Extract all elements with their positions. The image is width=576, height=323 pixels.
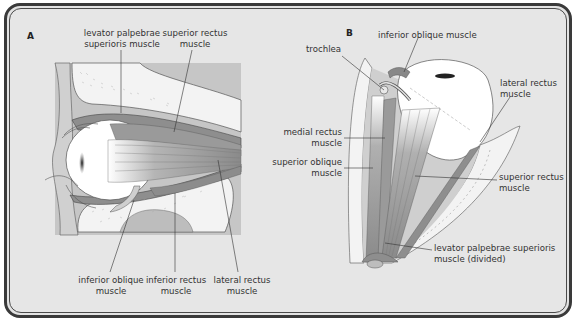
label-lateral-rectus-a: lateral rectus muscle bbox=[212, 275, 272, 296]
label-inferior-oblique-b: inferior oblique muscle bbox=[378, 30, 477, 41]
label-superior-oblique: superior oblique muscle bbox=[268, 157, 342, 178]
label-levator-palpebrae-superioris: levator palpebrae superioris muscle bbox=[82, 28, 162, 49]
label-superior-rectus-b: superior rectus muscle bbox=[499, 172, 564, 193]
label-inferior-rectus-a: inferior rectus muscle bbox=[145, 275, 207, 296]
label-line: inferior oblique muscle bbox=[378, 30, 477, 41]
label-line: muscle (divided) bbox=[434, 254, 555, 265]
label-line: muscle bbox=[500, 89, 557, 100]
label-line: inferior rectus bbox=[145, 275, 207, 286]
label-inferior-oblique-a: inferior oblique muscle bbox=[76, 275, 146, 296]
label-levator-divided: levator palpebrae superioris muscle (div… bbox=[434, 243, 555, 264]
label-line: muscle bbox=[212, 286, 272, 297]
label-line: muscle bbox=[76, 286, 146, 297]
label-line: superior rectus bbox=[162, 28, 228, 39]
label-line: medial rectus bbox=[276, 127, 342, 138]
label-line: levator palpebrae bbox=[82, 28, 162, 39]
label-line: muscle bbox=[276, 138, 342, 149]
panel-b-letter: B bbox=[346, 28, 353, 38]
label-medial-rectus: medial rectus muscle bbox=[276, 127, 342, 148]
label-line: superior rectus bbox=[499, 172, 564, 183]
label-lateral-rectus-b: lateral rectus muscle bbox=[500, 78, 557, 99]
label-line: muscle bbox=[145, 286, 207, 297]
label-line: muscle bbox=[268, 168, 342, 179]
label-line: inferior oblique bbox=[76, 275, 146, 286]
label-superior-rectus-a: superior rectus muscle bbox=[162, 28, 228, 49]
panel-b-illustration bbox=[342, 38, 520, 268]
label-line: lateral rectus bbox=[212, 275, 272, 286]
label-line: superioris muscle bbox=[82, 39, 162, 50]
label-line: muscle bbox=[499, 183, 564, 194]
label-line: lateral rectus bbox=[500, 78, 557, 89]
label-line: muscle bbox=[162, 39, 228, 50]
label-line: superior oblique bbox=[268, 157, 342, 168]
label-line: trochlea bbox=[306, 44, 341, 55]
label-line: levator palpebrae superioris bbox=[434, 243, 555, 254]
panel-a-illustration bbox=[45, 50, 241, 272]
label-trochlea: trochlea bbox=[306, 44, 341, 55]
panel-a-letter: A bbox=[27, 31, 34, 41]
